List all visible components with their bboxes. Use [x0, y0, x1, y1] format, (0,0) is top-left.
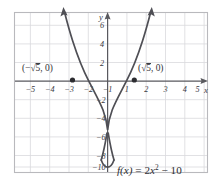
- x-axis-label: x: [203, 85, 208, 95]
- negative-root-label: (−√5, 0): [22, 63, 53, 74]
- equation-minus: −: [159, 164, 171, 176]
- graph-figure: −5 −4 −3 −2 −1 1 2 3 4 5 x 6 4 2 −2 −4 −…: [0, 0, 218, 187]
- x-tick-label--4: −4: [45, 85, 55, 94]
- negative-root-close: , 0): [40, 63, 53, 74]
- y-tick-label-4: 4: [100, 40, 104, 49]
- positive-root-marker: [132, 77, 137, 82]
- function-equation-text: f(x) = 2x2 − 10: [117, 163, 182, 178]
- x-tick-label-1: 1: [125, 85, 129, 94]
- function-equation-label: f(x) = 2x2 − 10: [117, 163, 182, 178]
- x-tick-label-3: 3: [162, 85, 167, 94]
- positive-root-annotation: (√5, 0): [138, 63, 163, 74]
- negative-root-annotation: (−√5, 0): [22, 63, 53, 74]
- x-tick-label-2: 2: [144, 85, 148, 94]
- x-tick-label--1: −1: [103, 85, 113, 94]
- y-axis-label: y: [98, 12, 103, 22]
- y-tick-label-2: 2: [100, 59, 104, 68]
- x-tick-label-5: 5: [195, 85, 199, 94]
- positive-root-close: , 0): [151, 63, 164, 74]
- x-tick-label-4: 4: [183, 85, 187, 94]
- equation-constant: 10: [171, 164, 183, 176]
- coordinate-plane-svg: −5 −4 −3 −2 −1 1 2 3 4 5 x 6 4 2 −2 −4 −…: [0, 0, 218, 187]
- equation-fx: f(x): [117, 164, 133, 177]
- x-tick-label--5: −5: [26, 85, 36, 94]
- negative-root-open: (−: [22, 63, 30, 74]
- negative-root-marker: [70, 77, 75, 82]
- positive-root-label: (√5, 0): [138, 63, 163, 74]
- x-tick-label--3: −3: [64, 85, 74, 94]
- equation-equals: =: [133, 164, 145, 176]
